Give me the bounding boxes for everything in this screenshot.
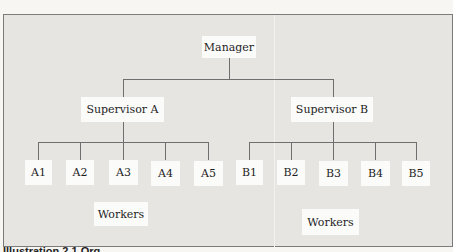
worker-a3: A3 <box>109 160 138 185</box>
worker-a5: A5 <box>194 161 223 186</box>
worker-b3: B3 <box>319 161 348 186</box>
worker-b4: B4 <box>361 161 390 186</box>
supervisor-b-box: Supervisor B <box>291 97 373 122</box>
worker-a5-drop <box>208 142 209 160</box>
worker-a2-drop <box>80 142 81 160</box>
supervisor-a-stem <box>123 122 124 160</box>
worker-b2-drop <box>291 142 292 160</box>
worker-a2: A2 <box>66 160 94 185</box>
page-seam <box>274 15 275 247</box>
worker-b1: B1 <box>236 160 263 185</box>
worker-a4: A4 <box>151 161 180 186</box>
supervisor-a-box: Supervisor A <box>81 97 164 122</box>
worker-b5-drop <box>416 142 417 160</box>
worker-b2: B2 <box>277 160 305 185</box>
manager-box: Manager <box>202 36 256 58</box>
figure-caption: Illustration 2.1 Org... <box>3 247 109 252</box>
worker-a1-drop <box>38 142 39 160</box>
manager-stem <box>229 58 230 79</box>
supervisor-b-drop <box>333 79 334 97</box>
worker-b5: B5 <box>402 161 430 186</box>
workers-group-label-b: Workers <box>302 209 359 235</box>
worker-b4-drop <box>375 142 376 160</box>
supervisor-a-bus <box>38 142 209 143</box>
supervisor-a-drop <box>123 79 124 97</box>
worker-a1: A1 <box>25 160 52 185</box>
supervisor-b-stem <box>333 122 334 160</box>
worker-b1-drop <box>249 142 250 160</box>
worker-a4-drop <box>165 142 166 160</box>
manager-bus <box>123 79 334 80</box>
workers-group-label-a: Workers <box>94 202 148 226</box>
supervisor-b-bus <box>249 142 417 143</box>
